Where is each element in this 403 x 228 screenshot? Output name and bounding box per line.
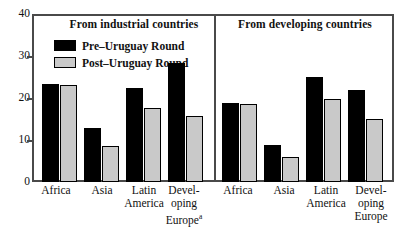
bar-pre-uruguay <box>126 88 143 182</box>
bar-group <box>264 14 299 182</box>
x-label-text: Asia <box>91 184 112 196</box>
bar-post-uruguay <box>60 85 77 182</box>
bar-post-uruguay <box>102 146 119 182</box>
x-label-text-line3: Europe <box>354 210 387 222</box>
bar-post-uruguay <box>144 108 161 182</box>
x-label-text-line1: Latin <box>132 184 156 196</box>
x-label-right-developing-europe: Devel- oping Europe <box>342 184 400 223</box>
bar-pre-uruguay <box>348 90 365 182</box>
bar-group <box>42 14 77 182</box>
bar-pre-uruguay <box>222 103 239 182</box>
x-label-text: Asia <box>273 184 294 196</box>
x-label-text: Africa <box>223 184 252 196</box>
bar-post-uruguay <box>240 104 257 182</box>
bar-pre-uruguay <box>306 77 323 182</box>
x-label-text-line2: oping <box>171 197 197 209</box>
x-label-text-line1: Latin <box>314 184 338 196</box>
x-label-footnote-marker: a <box>199 212 202 221</box>
x-label-left-developing-europe: Devel- oping Europea <box>156 184 212 227</box>
x-label-text-line2: America <box>306 197 346 209</box>
x-label-text-line2: oping <box>358 197 384 209</box>
bar-group <box>348 14 383 182</box>
bar-chart-figure: 40 30 20 10 0 From industrial countries … <box>0 0 403 228</box>
bar-post-uruguay <box>282 157 299 182</box>
bar-group <box>126 14 161 182</box>
bar-groups-industrial <box>34 14 214 182</box>
bar-groups-developing <box>216 14 394 182</box>
bar-group <box>168 14 203 182</box>
x-label-text: Africa <box>41 184 70 196</box>
bar-pre-uruguay <box>264 145 281 182</box>
bar-group <box>306 14 341 182</box>
x-label-text-line1: Devel- <box>355 184 386 196</box>
bar-post-uruguay <box>324 99 341 182</box>
panel-developing-countries: From developing countries <box>216 14 394 182</box>
bar-pre-uruguay <box>42 84 59 182</box>
bar-group <box>84 14 119 182</box>
x-label-text-line1: Devel- <box>168 184 199 196</box>
bar-post-uruguay <box>366 119 383 182</box>
y-tick-label-40: 40 <box>4 8 30 20</box>
bar-pre-uruguay <box>168 63 185 182</box>
panel-industrial-countries: From industrial countries Pre–Uruguay Ro… <box>34 14 214 182</box>
x-axis-labels: Africa Asia Latin America Devel- oping E… <box>0 184 403 228</box>
bar-group <box>222 14 257 182</box>
x-label-text-line3: Europe <box>166 214 199 226</box>
bar-pre-uruguay <box>84 128 101 182</box>
bar-post-uruguay <box>186 116 203 182</box>
